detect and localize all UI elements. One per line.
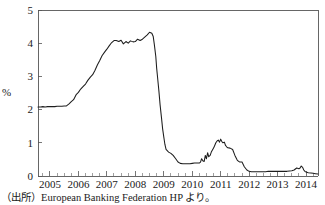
chart-figure: 0123452005200620072008200920102011201220… <box>0 0 325 205</box>
y-tick-label: 5 <box>28 4 34 16</box>
chart-ticks <box>38 10 313 176</box>
chart-tick-labels: 0123452005200620072008200920102011201220… <box>28 4 318 190</box>
x-tick-label: 2007 <box>96 178 119 190</box>
y-axis-unit-label: % <box>2 86 11 98</box>
y-tick-label: 3 <box>28 70 34 82</box>
y-tick-label: 0 <box>28 170 34 182</box>
x-tick-label: 2010 <box>181 178 204 190</box>
x-tick-label: 2006 <box>67 178 90 190</box>
chart-series <box>38 32 318 174</box>
x-tick-label: 2008 <box>124 178 147 190</box>
x-tick-label: 2012 <box>238 178 260 190</box>
x-tick-label: 2014 <box>295 178 318 190</box>
y-tick-label: 2 <box>28 103 34 115</box>
y-tick-label: 4 <box>28 37 34 49</box>
chart-axes <box>38 10 318 176</box>
y-tick-label: 1 <box>28 137 34 149</box>
line-chart-plot: 0123452005200620072008200920102011201220… <box>0 0 325 205</box>
series-line-euribor <box>38 32 318 174</box>
source-note: （出所）European Banking Federation HP より。 <box>1 192 215 204</box>
x-tick-label: 2013 <box>267 178 290 190</box>
x-tick-label: 2011 <box>210 178 232 190</box>
x-tick-label: 2005 <box>39 178 62 190</box>
x-tick-label: 2009 <box>153 178 176 190</box>
